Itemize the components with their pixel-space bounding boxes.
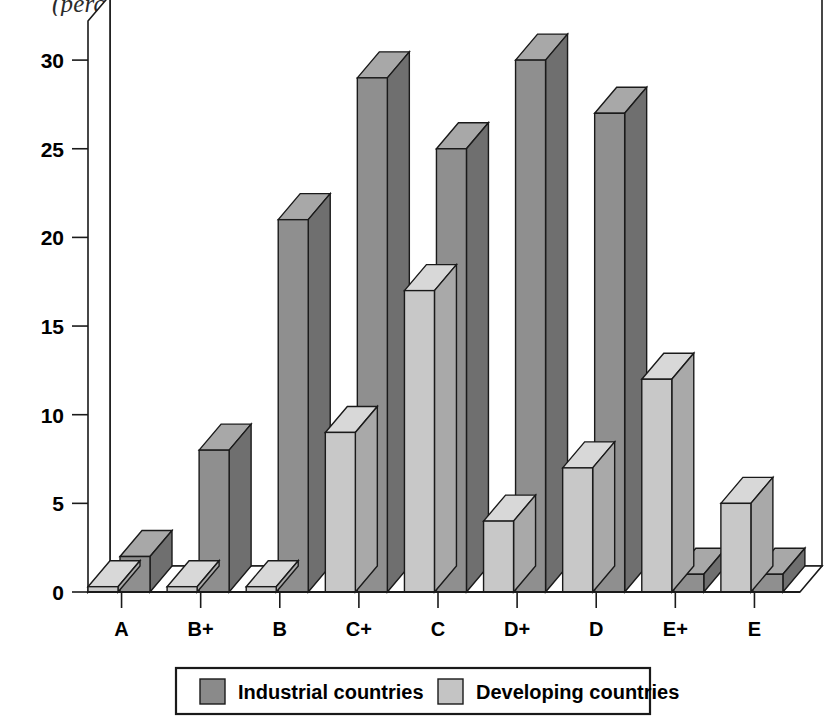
bar-chart: 302520151050AB+BC+CD+DE+E Industrial cou… xyxy=(0,0,828,722)
x-tick-label-C: C xyxy=(431,618,445,640)
bar-developing-E+ xyxy=(642,353,694,592)
legend-swatch xyxy=(200,679,225,704)
x-tick-label-E: E xyxy=(748,618,761,640)
x-tick-label-C+: C+ xyxy=(346,618,372,640)
bar-developing-C xyxy=(404,265,456,592)
x-tick-label-D+: D+ xyxy=(504,618,530,640)
y-tick-label: 15 xyxy=(41,315,65,338)
y-tick-label: 5 xyxy=(52,492,64,515)
x-tick-label-E+: E+ xyxy=(663,618,688,640)
bar-industrial-B xyxy=(278,194,330,592)
legend-swatch xyxy=(438,679,463,704)
x-tick-label-B: B xyxy=(273,618,287,640)
x-tick-label-B+: B+ xyxy=(188,618,214,640)
y-tick-label: 25 xyxy=(41,138,65,161)
y-tick-label: 20 xyxy=(41,226,64,249)
y-tick-label: 10 xyxy=(41,404,64,427)
bar-developing-E xyxy=(721,477,773,592)
y-tick-label: 0 xyxy=(52,581,64,604)
bar-developing-D xyxy=(563,442,615,592)
legend-label: Industrial countries xyxy=(238,681,424,703)
bar-developing-C+ xyxy=(325,406,377,592)
legend-label: Developing countries xyxy=(476,681,679,703)
x-tick-label-A: A xyxy=(114,618,128,640)
y-tick-label: 30 xyxy=(41,49,64,72)
chart-svg: 302520151050AB+BC+CD+DE+E Industrial cou… xyxy=(0,0,828,722)
chart-legend: Industrial countriesDeveloping countries xyxy=(176,668,679,714)
x-tick-label-D: D xyxy=(589,618,603,640)
